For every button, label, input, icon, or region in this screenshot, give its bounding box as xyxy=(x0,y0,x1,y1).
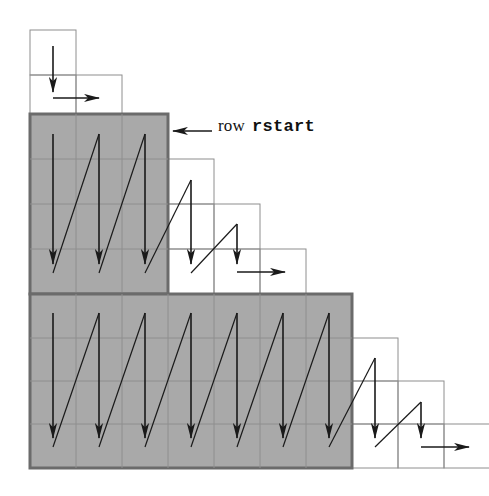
grid-cell xyxy=(444,424,489,468)
figure-root: rowrstart xyxy=(0,0,489,496)
staircase-traversal-diagram xyxy=(0,0,489,496)
